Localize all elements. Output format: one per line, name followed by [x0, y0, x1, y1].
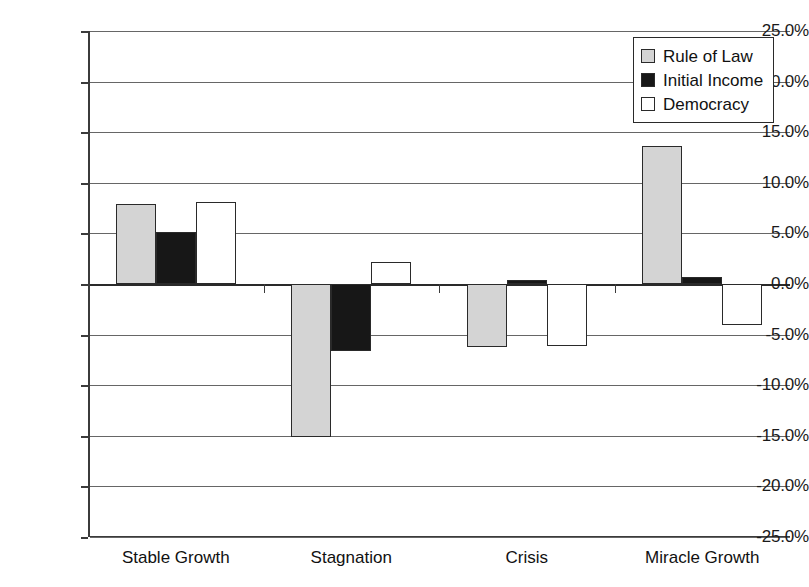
bar: [682, 277, 722, 284]
y-axis-tick-label: 10.0%: [731, 174, 809, 191]
legend-swatch-initial-income: [641, 73, 655, 87]
legend-swatch-democracy: [641, 97, 655, 111]
x-axis-tick-label: Miracle Growth: [645, 548, 759, 567]
legend-label: Initial Income: [663, 72, 763, 89]
gridline: [90, 486, 790, 487]
bar: [196, 202, 236, 284]
y-axis-tick-mark: [81, 82, 88, 84]
bar: [467, 284, 507, 347]
y-axis-tick-mark: [81, 31, 88, 33]
x-axis-tick-label: Stable Growth: [122, 548, 230, 567]
y-axis-tick-mark: [81, 284, 88, 286]
gridline: [90, 183, 790, 184]
bar: [291, 284, 331, 437]
y-axis-tick-mark: [81, 486, 88, 488]
y-axis-tick-mark: [81, 335, 88, 337]
bar: [331, 284, 371, 351]
legend-label: Democracy: [663, 96, 749, 113]
bar-chart: 25.0%20.0%15.0%10.0%5.0%0.0%-5.0%-10.0%-…: [0, 0, 809, 587]
bar: [156, 232, 196, 284]
y-axis-tick-mark: [81, 183, 88, 185]
y-axis-tick-mark: [81, 537, 88, 539]
y-axis-tick-mark: [81, 132, 88, 134]
gridline: [90, 385, 790, 386]
gridline: [90, 31, 790, 32]
y-axis-tick-mark: [81, 436, 88, 438]
gridline: [90, 132, 790, 133]
bar: [116, 204, 156, 284]
chart-legend: Rule of Law Initial Income Democracy: [633, 37, 774, 123]
y-axis-tick-label: -5.0%: [731, 326, 809, 343]
bar: [722, 284, 762, 325]
legend-label: Rule of Law: [663, 48, 753, 65]
y-axis-tick-mark: [81, 233, 88, 235]
bar: [371, 262, 411, 284]
bar: [642, 146, 682, 284]
x-axis-tick-label: Crisis: [506, 548, 549, 567]
x-axis-group-separator: [264, 284, 265, 293]
legend-item: Rule of Law: [641, 44, 763, 68]
bar: [547, 284, 587, 346]
y-axis-tick-label: -15.0%: [731, 427, 809, 444]
legend-item: Initial Income: [641, 68, 763, 92]
y-axis-tick-label: -10.0%: [731, 376, 809, 393]
gridline: [90, 335, 790, 336]
y-axis-tick-label: -20.0%: [731, 477, 809, 494]
gridline: [90, 436, 790, 437]
x-axis-group-separator: [615, 284, 616, 293]
y-axis: [0, 31, 88, 537]
y-axis-tick-label: 5.0%: [731, 224, 809, 241]
y-axis-tick-label: 15.0%: [731, 123, 809, 140]
y-axis-tick-mark: [81, 385, 88, 387]
x-axis-group-separator: [439, 284, 440, 293]
gridline: [90, 284, 790, 286]
bar: [507, 280, 547, 284]
legend-item: Democracy: [641, 92, 763, 116]
x-axis-tick-label: Stagnation: [311, 548, 392, 567]
y-axis-tick-label: -25.0%: [731, 528, 809, 545]
gridline: [90, 537, 790, 538]
legend-swatch-rule-of-law: [641, 49, 655, 63]
